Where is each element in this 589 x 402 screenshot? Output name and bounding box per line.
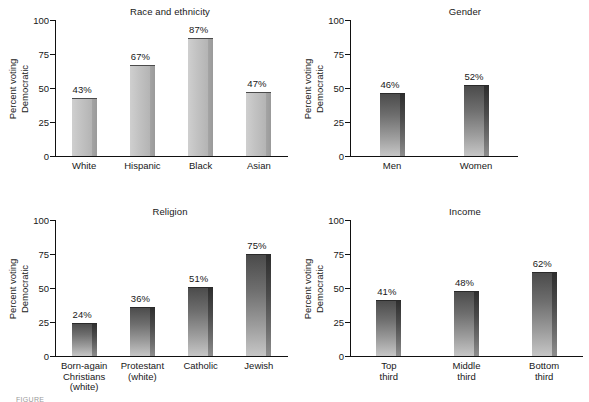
x-axis-category-label-line: third [529,372,559,383]
bar-side [396,300,401,356]
bar-side [208,38,213,156]
bar-face [188,38,208,156]
bar-side [400,93,405,156]
x-axis-category-label: Jewish [244,361,273,372]
bar-value-label: 67% [131,51,150,62]
y-axis-tick [50,322,55,323]
x-axis-category-label: White [72,161,96,172]
y-axis-label-line-2: Democratic [18,59,30,120]
x-axis-category-label: Black [189,161,212,172]
x-axis-category-label-line: Men [383,161,401,172]
bar-face [376,300,396,356]
chart-panel-income: IncomePercent votingDemocratic0255075100… [295,200,589,401]
y-axis-tick [345,88,350,89]
bar [380,93,405,156]
y-axis-tick [345,122,350,123]
bar [72,323,97,356]
x-axis-category-label-line: Born-again [61,361,107,372]
x-axis-category-label: Men [383,161,401,172]
y-axis-label: Percent votingDemocratic [10,220,26,358]
y-axis-tick-label: 25 [333,117,344,128]
bar-top-edge [464,85,489,86]
bar-value-label: 48% [455,277,474,288]
y-axis-tick [345,288,350,289]
bar-side [92,323,97,356]
bar-value-label: 52% [464,71,483,82]
y-axis-tick-label: 100 [33,15,49,26]
chart-panel-religion: ReligionPercent votingDemocratic02550751… [0,200,294,401]
plot-area: 025507510043%White67%Hispanic87%Black47%… [55,20,288,157]
bar-face [246,254,266,356]
y-axis-tick [50,254,55,255]
bar [72,98,97,156]
y-axis-label: Percent votingDemocratic [10,20,26,158]
bar [454,291,479,356]
y-axis-tick [50,356,55,357]
x-axis-line [350,356,583,357]
y-axis-tick-label: 0 [44,151,49,162]
x-axis-line [55,356,288,357]
x-axis-category-label: Bottomthird [529,361,559,382]
x-axis-category-label-line: Hispanic [124,161,160,172]
y-axis-line [55,20,56,157]
y-axis-label-line-1: Percent voting [302,259,314,320]
y-axis-tick-label: 50 [333,283,344,294]
chart-panel-race-and-ethnicity: Race and ethnicityPercent votingDemocrat… [0,0,294,201]
bar-side [266,254,271,356]
y-axis-label: Percent votingDemocratic [305,220,321,358]
bar-value-label: 62% [533,258,552,269]
y-axis-tick [345,356,350,357]
bar-side [266,92,271,156]
bar-top-edge [72,323,97,324]
bar-value-label: 24% [73,309,92,320]
bar-top-edge [188,287,213,288]
y-axis-tick-label: 100 [33,215,49,226]
y-axis-label-line-1: Percent voting [302,59,314,120]
bar-face [464,85,484,156]
bar-value-label: 51% [189,273,208,284]
bar-side [484,85,489,156]
x-axis-category-label-line: Jewish [244,361,273,372]
bar-top-edge [246,254,271,255]
figure-four-panel-bar-charts: Race and ethnicityPercent votingDemocrat… [0,0,589,402]
y-axis-tick-label: 50 [38,283,49,294]
y-axis-tick [345,254,350,255]
y-axis-line [350,220,351,357]
bar-side [552,272,557,356]
x-axis-category-label-line: Bottom [529,361,559,372]
y-axis-tick-label: 50 [333,83,344,94]
bar-top-edge [376,300,401,301]
bar-side [92,98,97,156]
y-axis-tick-label: 25 [38,317,49,328]
y-axis-tick-label: 25 [333,317,344,328]
bar-face [246,92,266,156]
y-axis-tick-label: 100 [328,15,344,26]
bar [130,307,155,356]
x-axis-category-label-line: (white) [121,372,164,383]
bar-face [188,287,208,356]
y-axis-label-line-1: Percent voting [7,259,19,320]
x-axis-category-label: Hispanic [124,161,160,172]
bar-value-label: 46% [380,79,399,90]
y-axis-label-line-1: Percent voting [7,59,19,120]
bar-value-label: 87% [189,24,208,35]
x-axis-category-label: Protestant(white) [121,361,164,382]
bar-face [130,307,150,356]
y-axis-tick-label: 75 [333,249,344,260]
y-axis-tick [50,220,55,221]
bar-face [532,272,552,356]
bar-value-label: 47% [247,78,266,89]
plot-area: 025507510046%Men52%Women [350,20,583,157]
y-axis-tick [50,20,55,21]
y-axis-tick-label: 50 [38,83,49,94]
bar-top-edge [380,93,405,94]
bar [246,92,271,156]
bar-side [150,65,155,156]
bar-side [474,291,479,356]
x-axis-category-label-line: Catholic [183,361,217,372]
x-axis-category-label-line: Top [380,361,398,372]
y-axis-tick [345,156,350,157]
bar-face [72,323,92,356]
x-axis-category-label: Asian [247,161,271,172]
plot-area: 025507510041%Topthird48%Middlethird62%Bo… [350,220,583,357]
